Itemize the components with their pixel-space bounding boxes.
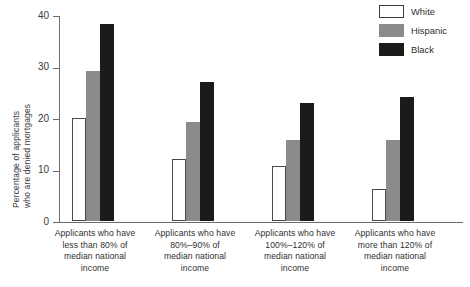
category-label-line: median national (139, 251, 251, 263)
category-label-3: Applicants who have100%–120% ofmedian na… (239, 228, 351, 274)
chart-legend: WhiteHispanicBlack (379, 4, 469, 61)
legend-swatch-hispanic (379, 24, 404, 37)
bar-hispanic-group-1 (86, 71, 100, 221)
legend-label-hispanic: Hispanic (411, 25, 447, 36)
y-tick-label-30: 30 (38, 61, 49, 72)
bar-group-2 (172, 15, 218, 221)
bar-black-group-4 (400, 97, 414, 221)
bar-white-group-2 (172, 159, 186, 221)
category-label-line: income (239, 263, 351, 275)
category-label-line: income (139, 263, 251, 275)
category-label-4: Applicants who havemore than 120% ofmedi… (339, 228, 451, 274)
y-tick-20: 20 (53, 119, 59, 120)
bar-group-3 (272, 15, 318, 221)
x-axis-line (59, 222, 463, 223)
x-axis-category-labels: Applicants who haveless than 80% ofmedia… (59, 228, 463, 286)
bar-hispanic-group-4 (386, 140, 400, 221)
y-tick-label-10: 10 (38, 164, 49, 175)
legend-label-white: White (411, 6, 435, 17)
y-axis-title-line-1: Percentage of applicants (11, 111, 21, 208)
y-tick-40: 40 (53, 16, 59, 17)
y-tick-30: 30 (53, 68, 59, 69)
category-label-line: 80%–90% of (139, 240, 251, 252)
category-label-line: 100%–120% of (239, 240, 351, 252)
bar-hispanic-group-2 (186, 122, 200, 221)
y-tick-label-40: 40 (38, 10, 49, 21)
y-axis-title-line-2: who are denied mortgages (22, 104, 32, 208)
category-label-2: Applicants who have80%–90% ofmedian nati… (139, 228, 251, 274)
legend-item-white[interactable]: White (379, 4, 469, 19)
y-tick-10: 10 (53, 171, 59, 172)
category-label-line: less than 80% of (39, 240, 151, 252)
category-label-line: Applicants who have (39, 228, 151, 240)
y-axis-line (59, 16, 60, 223)
bar-white-group-1 (72, 118, 86, 221)
bar-white-group-3 (272, 166, 286, 221)
y-tick-label-0: 0 (43, 216, 49, 227)
bar-black-group-3 (300, 103, 314, 221)
legend-item-black[interactable]: Black (379, 42, 469, 57)
legend-swatch-black (379, 43, 404, 56)
category-label-line: more than 120% of (339, 240, 451, 252)
category-label-line: Applicants who have (139, 228, 251, 240)
y-tick-label-20: 20 (38, 113, 49, 124)
category-label-line: income (339, 263, 451, 275)
bar-group-1 (72, 15, 118, 221)
legend-item-hispanic[interactable]: Hispanic (379, 23, 469, 38)
legend-swatch-white (379, 5, 404, 18)
category-label-1: Applicants who haveless than 80% ofmedia… (39, 228, 151, 274)
category-label-line: median national (339, 251, 451, 263)
y-tick-0: 0 (53, 222, 59, 223)
category-label-line: Applicants who have (339, 228, 451, 240)
category-label-line: median national (39, 251, 151, 263)
bar-white-group-4 (372, 189, 386, 221)
y-axis-title: Percentage of applicants who are denied … (0, 0, 34, 225)
legend-label-black: Black (411, 44, 434, 55)
bar-black-group-2 (200, 82, 214, 221)
bar-chart: Percentage of applicants who are denied … (0, 0, 470, 287)
category-label-line: median national (239, 251, 351, 263)
bar-black-group-1 (100, 24, 114, 221)
category-label-line: income (39, 263, 151, 275)
category-label-line: Applicants who have (239, 228, 351, 240)
bar-hispanic-group-3 (286, 140, 300, 221)
